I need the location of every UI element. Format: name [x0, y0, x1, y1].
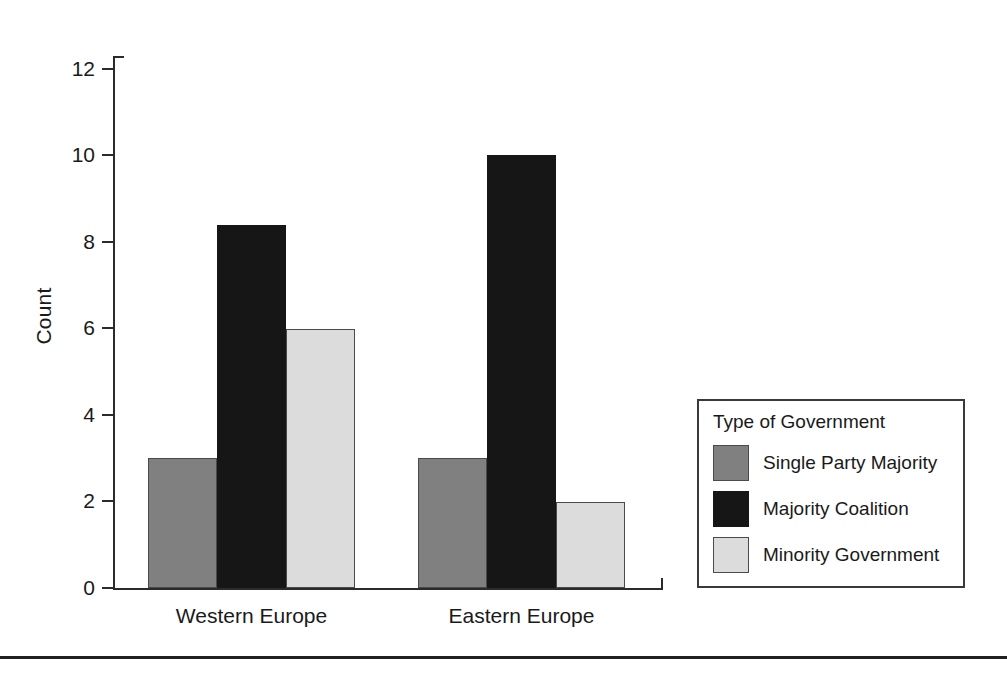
y-axis-tick: [102, 587, 113, 589]
x-axis-line: [113, 588, 663, 590]
y-axis-line: [113, 56, 115, 590]
bar: [487, 155, 556, 588]
legend-label-single-party-majority: Single Party Majority: [763, 451, 937, 475]
legend-label-majority-coalition: Majority Coalition: [763, 497, 909, 521]
y-axis-tick-label: 10: [51, 144, 95, 165]
y-axis-top-cap: [113, 56, 124, 58]
bar: [217, 225, 286, 588]
x-axis-right-cap: [661, 578, 663, 590]
legend-item-minority-government: Minority Government: [713, 535, 957, 575]
bar: [556, 502, 625, 589]
legend-item-single-party-majority: Single Party Majority: [713, 443, 957, 483]
footer-divider: [0, 656, 1007, 659]
bar: [418, 458, 487, 588]
bar: [286, 329, 355, 589]
bar-chart-figure: Count 024681012 Western EuropeEastern Eu…: [0, 0, 1007, 675]
legend-label-minority-government: Minority Government: [763, 543, 939, 567]
y-axis-label: Count: [30, 246, 58, 386]
y-axis-tick: [102, 154, 113, 156]
y-axis-tick: [102, 327, 113, 329]
y-axis-tick-label: 8: [51, 231, 95, 252]
legend-item-majority-coalition: Majority Coalition: [713, 489, 957, 529]
y-axis-tick-label: 0: [51, 577, 95, 598]
y-axis-tick-label: 6: [51, 317, 95, 338]
legend-swatch-icon-majority-coalition: [713, 491, 749, 527]
legend-swatch-icon-single-party-majority: [713, 445, 749, 481]
y-axis-tick: [102, 68, 113, 70]
plot-area: 024681012 Western EuropeEastern Europe: [113, 56, 663, 590]
y-axis-tick: [102, 500, 113, 502]
y-axis-tick-label: 12: [51, 58, 95, 79]
legend-box: Type of Government Single Party Majority…: [697, 399, 965, 588]
y-axis-tick-label: 2: [51, 490, 95, 511]
x-axis-category-label: Western Europe: [108, 604, 395, 628]
legend-title: Type of Government: [713, 411, 885, 433]
legend-swatch-icon-minority-government: [713, 537, 749, 573]
y-axis-tick: [102, 414, 113, 416]
y-axis-tick-label: 4: [51, 404, 95, 425]
y-axis-tick: [102, 241, 113, 243]
bar: [148, 458, 217, 588]
x-axis-category-label: Eastern Europe: [378, 604, 665, 628]
